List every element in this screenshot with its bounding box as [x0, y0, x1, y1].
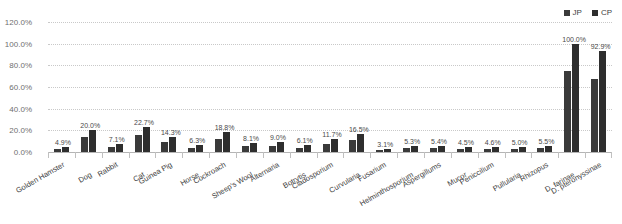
bar-group: 3.1%: [370, 22, 397, 152]
y-axis-tick-label: 80.0%: [0, 61, 32, 70]
y-axis-tick-label: 40.0%: [0, 104, 32, 113]
bar-value-label: 92.9%: [591, 43, 611, 50]
bar-value-label: 22.7%: [134, 119, 154, 126]
bar-jp[interactable]: [564, 71, 571, 152]
bar-value-label: 7.1%: [109, 136, 125, 143]
x-axis-category-labels: Golden HamsterDogRabbitCatGuinea PigHors…: [48, 158, 612, 224]
bar-group: 6.1%: [290, 22, 317, 152]
bar-cp[interactable]: [599, 51, 606, 152]
bar-cp[interactable]: [331, 139, 338, 152]
x-axis-category-cell: Curvularia: [343, 158, 370, 224]
x-axis-category-cell: Sheep's Wool: [236, 158, 263, 224]
x-axis-category-cell: Horse: [182, 158, 209, 224]
bar-cp[interactable]: [223, 132, 230, 152]
bar-value-label: 18.8%: [215, 124, 235, 131]
legend-item-cp[interactable]: CP: [592, 8, 612, 17]
x-axis-category-cell: Guinea Pig: [155, 158, 182, 224]
bar-group: 16.5%: [343, 22, 370, 152]
bar-value-label: 3.1%: [377, 141, 393, 148]
legend-swatch-cp: [592, 10, 598, 16]
bar-value-label: 5.4%: [431, 138, 447, 145]
bar-cp[interactable]: [304, 145, 311, 152]
x-axis-category-cell: Rabbit: [102, 158, 129, 224]
bar-value-label: 6.3%: [189, 137, 205, 144]
bar-jp[interactable]: [215, 139, 222, 152]
legend-item-jp[interactable]: JP: [564, 8, 582, 17]
bar-value-label: 14.3%: [161, 129, 181, 136]
x-axis-category-cell: D. pteronyssinae: [585, 158, 612, 224]
x-axis-category-cell: Golden Hamster: [48, 158, 75, 224]
bar-group: 14.3%: [155, 22, 182, 152]
bar-cp[interactable]: [169, 137, 176, 152]
bar-group: 6.3%: [182, 22, 209, 152]
bar-value-label: 6.1%: [297, 137, 313, 144]
bar-value-label: 5.0%: [512, 139, 528, 146]
bar-cp[interactable]: [250, 143, 257, 152]
bar-value-label: 9.0%: [270, 134, 286, 141]
bar-value-label: 4.9%: [55, 139, 71, 146]
y-axis-tick-label: 0.0%: [0, 148, 32, 157]
bar-group: 100.0%: [558, 22, 585, 152]
y-axis-tick-label: 60.0%: [0, 83, 32, 92]
bar-group: 20.0%: [75, 22, 102, 152]
x-axis-category-cell: Cat: [129, 158, 156, 224]
x-axis-category-label: Golden Hamster: [14, 160, 66, 195]
x-axis-category-cell: Helminthosporium: [397, 158, 424, 224]
x-axis-category-cell: Alternaria: [263, 158, 290, 224]
legend-label-cp: CP: [601, 8, 612, 17]
bar-value-label: 5.5%: [539, 138, 555, 145]
bar-value-label: 5.3%: [404, 138, 420, 145]
plot-area: 0.0%20.0%40.0%60.0%80.0%100.0%120.0% 4.9…: [48, 22, 612, 152]
x-axis-category-cell: Aspergillums: [424, 158, 451, 224]
bar-group: 5.5%: [531, 22, 558, 152]
x-axis-category-cell: Pullularia: [505, 158, 532, 224]
bar-value-label: 100.0%: [562, 36, 586, 43]
bar-group: 4.6%: [478, 22, 505, 152]
bar-chart: JP CP 0.0%20.0%40.0%60.0%80.0%100.0%120.…: [0, 0, 622, 224]
bar-jp[interactable]: [349, 140, 356, 152]
bar-group: 5.4%: [424, 22, 451, 152]
bar-group: 22.7%: [129, 22, 156, 152]
bar-cp[interactable]: [572, 44, 579, 152]
bar-group: 8.1%: [236, 22, 263, 152]
bar-jp[interactable]: [161, 142, 168, 152]
bar-cp[interactable]: [143, 127, 150, 152]
bar-cp[interactable]: [277, 142, 284, 152]
bar-cp[interactable]: [89, 130, 96, 152]
bar-jp[interactable]: [591, 79, 598, 152]
bar-group: 5.0%: [505, 22, 532, 152]
bar-group: 9.0%: [263, 22, 290, 152]
bar-group: 18.8%: [209, 22, 236, 152]
legend-label-jp: JP: [573, 8, 582, 17]
bar-value-label: 4.6%: [485, 139, 501, 146]
x-axis-category-label: Dog: [76, 170, 92, 185]
bar-value-label: 4.5%: [458, 139, 474, 146]
bar-value-label: 11.7%: [322, 131, 341, 138]
bar-group: 4.9%: [48, 22, 75, 152]
bar-group: 92.9%: [585, 22, 612, 152]
bar-jp[interactable]: [81, 137, 88, 152]
x-axis-category-cell: Peniccilium: [478, 158, 505, 224]
bar-cp[interactable]: [196, 145, 203, 152]
x-axis-category-cell: Dog: [75, 158, 102, 224]
y-axis-tick-label: 100.0%: [0, 39, 32, 48]
bar-cp[interactable]: [116, 144, 123, 152]
bar-jp[interactable]: [323, 144, 330, 152]
y-axis-tick-label: 20.0%: [0, 126, 32, 135]
legend-swatch-jp: [564, 10, 570, 16]
bar-groups: 4.9%20.0%7.1%22.7%14.3%6.3%18.8%8.1%9.0%…: [48, 22, 612, 152]
y-axis-tick-label: 120.0%: [0, 18, 32, 27]
bar-value-label: 20.0%: [80, 122, 100, 129]
bar-cp[interactable]: [357, 134, 364, 152]
bar-group: 5.3%: [397, 22, 424, 152]
chart-legend: JP CP: [564, 8, 612, 17]
bar-jp[interactable]: [135, 135, 142, 152]
bar-value-label: 8.1%: [243, 135, 259, 142]
bar-value-label: 16.5%: [349, 126, 369, 133]
x-axis-category-cell: Mucor: [451, 158, 478, 224]
bar-group: 11.7%: [317, 22, 344, 152]
bar-group: 4.5%: [451, 22, 478, 152]
bar-group: 7.1%: [102, 22, 129, 152]
